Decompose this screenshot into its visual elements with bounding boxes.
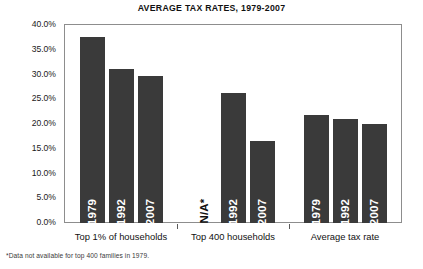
plot-area: 197919922007N/A*19922007197919922007 <box>65 25 401 223</box>
bar-slot[interactable]: 1992 <box>333 25 358 223</box>
bar-label-wrap: N/A* <box>192 179 217 221</box>
group-axis-label: Top 1% of households <box>65 231 177 242</box>
bar-value-label: 1992 <box>339 199 351 225</box>
bar-slot[interactable]: 1979 <box>80 25 105 223</box>
bar-slot[interactable]: N/A* <box>192 25 217 223</box>
bar-label-wrap: 1979 <box>80 179 105 221</box>
y-axis-tick-label: 10.0% <box>0 168 56 178</box>
bar-value-label: 1979 <box>86 199 98 225</box>
group-axis-label: Top 400 households <box>177 231 289 242</box>
y-axis-tick-label: 30.0% <box>0 69 56 79</box>
y-axis-tick-label: 40.0% <box>0 19 56 29</box>
bar-value-label: 2007 <box>144 199 156 225</box>
bar-slot[interactable]: 1992 <box>221 25 246 223</box>
tax-rates-bar-chart: AVERAGE TAX RATES, 1979-2007 40.0%35.0%3… <box>0 0 423 269</box>
bar-value-label: 1992 <box>115 199 127 225</box>
bar-group: 197919922007 <box>80 25 163 223</box>
bar-label-wrap: 1992 <box>221 179 246 221</box>
bar-value-label: 1979 <box>310 199 322 225</box>
bar-slot[interactable]: 2007 <box>138 25 163 223</box>
bar-value-label: 2007 <box>368 199 380 225</box>
bar-label-wrap: 1992 <box>333 179 358 221</box>
bar-slot[interactable]: 2007 <box>250 25 275 223</box>
bar-value-label: 2007 <box>256 199 268 225</box>
y-axis-tick-label: 0.0% <box>0 217 56 227</box>
y-axis-tick-label: 5.0% <box>0 192 56 202</box>
bar-label-wrap: 2007 <box>250 179 275 221</box>
y-axis: 40.0%35.0%30.0%25.0%20.0%15.0%10.0%5.0%0… <box>0 24 62 223</box>
bar-label-wrap: 2007 <box>362 179 387 221</box>
group-axis-label: Average tax rate <box>289 231 401 242</box>
bar-label-wrap: 1979 <box>304 179 329 221</box>
y-axis-tick-label: 25.0% <box>0 93 56 103</box>
chart-title: AVERAGE TAX RATES, 1979-2007 <box>17 2 406 13</box>
y-axis-tick-label: 20.0% <box>0 118 56 128</box>
bar-slot[interactable]: 2007 <box>362 25 387 223</box>
bar-slot[interactable]: 1979 <box>304 25 329 223</box>
bar-slot[interactable]: 1992 <box>109 25 134 223</box>
bar-label-wrap: 2007 <box>138 179 163 221</box>
bar-group: 197919922007 <box>304 25 387 223</box>
y-axis-tick-label: 35.0% <box>0 44 56 54</box>
group-separator-tick <box>289 224 290 229</box>
bar-label-wrap: 1992 <box>109 179 134 221</box>
bar-value-label: 1992 <box>227 199 239 225</box>
chart-footnote: *Data not available for top 400 families… <box>6 252 149 259</box>
bar-group: N/A*19922007 <box>192 25 275 223</box>
group-separator-tick <box>177 224 178 229</box>
bar-value-label: N/A* <box>198 198 210 223</box>
y-axis-tick-label: 15.0% <box>0 143 56 153</box>
